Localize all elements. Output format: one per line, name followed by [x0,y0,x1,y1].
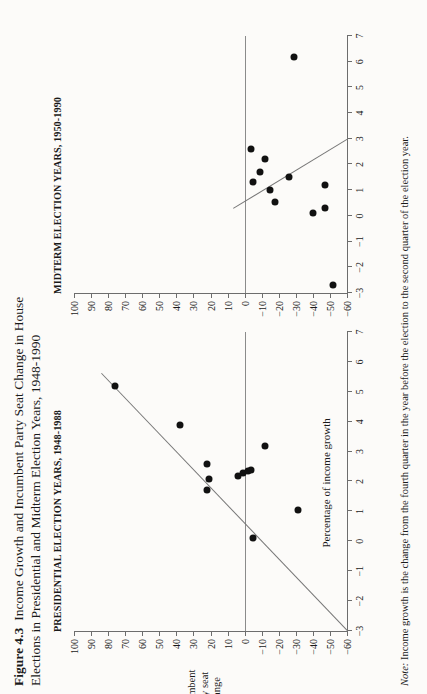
x-axis-tick-label: −3 [354,288,365,299]
y-axis-tick [330,293,331,298]
x-axis-tick-label: 6 [354,359,365,364]
x-axis-tick [347,241,352,242]
x-axis-tick-label: −2 [354,596,365,607]
data-point [330,282,337,289]
y-axis-tick [211,631,212,636]
y-axis-tick-label: −40 [307,301,318,317]
y-axis-tick-label: 50 [154,301,165,311]
y-axis-tick-label: 0 [239,639,250,644]
y-axis-tick-label: −20 [273,301,284,317]
y-axis-tick-label: 60 [137,301,148,311]
x-axis-tick [347,164,352,165]
data-point [205,475,212,482]
y-axis-tick-label: −30 [290,301,301,317]
x-axis-tick [347,361,352,362]
x-axis-tick [347,421,352,422]
y-axis-tick-label: 100 [69,639,80,654]
zero-reference-line [245,332,246,631]
x-axis-tick [347,570,352,571]
regression-line [101,373,347,631]
y-axis-tick-label: 90 [86,301,97,311]
x-axis-tick [347,481,352,482]
data-point [204,487,211,494]
figure-caption: Figure 4.3Income Growth and Incumbent Pa… [10,256,44,686]
zero-reference-line [245,36,246,293]
y-axis-tick-label: 20 [205,301,216,311]
x-axis-tick [347,86,352,87]
figure-note: Note: Income growth is the change from t… [398,26,411,686]
data-point [204,460,211,467]
data-point [250,535,257,542]
x-axis-tick-label: −1 [354,566,365,577]
y-axis-tick-label: 40 [171,639,182,649]
x-axis-tick [347,391,352,392]
y-axis-tick [296,293,297,298]
y-axis-tick [74,631,75,636]
y-axis-tick [125,293,126,298]
data-point [250,179,257,186]
y-axis-tick-label: 30 [188,639,199,649]
y-axis-tick-label: −30 [290,639,301,655]
x-axis-tick [347,600,352,601]
y-axis-tick-label: 10 [222,301,233,311]
note-text: Income growth is the change from the fou… [399,136,410,660]
data-point [248,466,255,473]
y-axis-tick-label: 10 [222,639,233,649]
y-axis-tick-label: 60 [137,639,148,649]
figure-number: Figure 4.3 [11,628,26,686]
y-axis-tick [313,293,314,298]
x-axis-tick-label: 5 [354,85,365,90]
x-axis-tick [347,215,352,216]
data-point [176,421,183,428]
x-axis-tick-label: 3 [354,449,365,454]
y-axis-tick [91,631,92,636]
y-axis-tick [74,293,75,298]
y-axis-tick [279,293,280,298]
x-axis-tick [347,510,352,511]
x-axis-tick-label: 0 [354,539,365,544]
data-point [285,174,292,181]
x-axis-tick-label: 5 [354,389,365,394]
y-axis-tick [347,631,348,636]
y-axis-tick [313,631,314,636]
y-axis-tick-label: 50 [154,639,165,649]
y-axis-tick [159,631,160,636]
y-axis-tick [228,293,229,298]
presidential-scatter-plot: −60−50−40−30−20−100102030405060708090100… [74,332,348,632]
midterm-panel-title: MIDTERM ELECTION YEARS, 1950-1990 [52,97,63,294]
y-axis-tick [193,293,194,298]
data-point [291,53,298,60]
y-axis-tick [159,293,160,298]
data-point [309,210,316,217]
y-axis-title-line: party seat [199,656,212,694]
y-axis-tick [108,631,109,636]
y-axis-tick-label: −60 [342,639,353,655]
x-axis-tick-label: 2 [354,162,365,167]
data-point [321,205,328,212]
x-axis-tick [347,266,352,267]
x-axis-tick [347,189,352,190]
x-axis-tick-label: 2 [354,479,365,484]
y-axis-tick-label: 30 [188,301,199,311]
data-point [111,382,118,389]
x-axis-tick-label: 1 [354,509,365,514]
y-axis-tick [330,631,331,636]
y-axis-tick [108,293,109,298]
y-axis-title-line: change [211,656,224,694]
x-axis-tick [347,61,352,62]
y-axis-tick-label: −20 [273,639,284,655]
y-axis-tick [176,631,177,636]
y-axis-tick [245,631,246,636]
note-label: Note: [399,663,410,686]
y-axis-tick [245,293,246,298]
data-point [294,506,301,513]
y-axis-tick-label: −10 [256,301,267,317]
y-axis-tick-label: 80 [103,639,114,649]
y-axis-tick-label: 100 [69,301,80,316]
midterm-x-axis-title: Percentage of income growth [320,418,332,547]
data-point [256,169,263,176]
data-point [262,442,269,449]
y-axis-tick [296,631,297,636]
x-axis-tick [347,112,352,113]
x-axis-tick-label: 0 [354,213,365,218]
